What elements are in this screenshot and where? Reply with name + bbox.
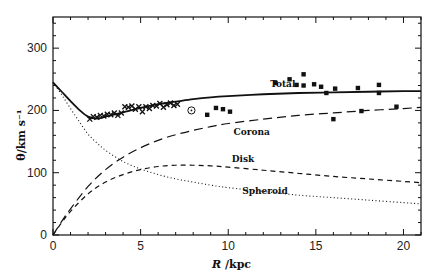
square-marker <box>333 86 337 90</box>
y-tick-label: 300 <box>27 41 47 55</box>
square-marker <box>214 106 218 110</box>
square-marker <box>324 91 328 95</box>
curve-spheroid <box>53 82 421 203</box>
x-tick-label: 5 <box>137 239 144 253</box>
square-marker <box>312 82 316 86</box>
label-total: Total <box>270 79 296 89</box>
y-axis-title: θ/km s⁻¹ <box>15 109 28 160</box>
y-tick-label: 0 <box>40 228 47 242</box>
plot-frame <box>53 17 421 235</box>
square-marker <box>319 85 323 89</box>
square-marker <box>221 107 225 111</box>
curve-labels: TotalCoronaDiskSpheroid <box>232 79 296 196</box>
square-marker <box>377 83 381 87</box>
square-marker <box>228 109 232 113</box>
x-tick-label: 15 <box>309 239 323 253</box>
sun-symbol-dot <box>191 110 193 112</box>
label-disk: Disk <box>232 154 255 164</box>
x-tick-label: 10 <box>222 239 236 253</box>
x-axis-title: R /kpc <box>211 258 251 271</box>
label-spheroid: Spheroid <box>242 186 288 196</box>
square-marker <box>359 109 363 113</box>
rotation-curve-chart: TotalCoronaDiskSpheroid 0510152001002003… <box>0 0 435 278</box>
square-marker <box>394 104 398 108</box>
square-marker <box>205 113 209 117</box>
square-marker <box>331 117 335 121</box>
cross-marker <box>140 109 145 114</box>
square-marker <box>301 72 305 76</box>
y-tick-label: 200 <box>27 103 47 117</box>
label-corona: Corona <box>233 127 269 137</box>
x-tick-label: 20 <box>397 239 411 253</box>
y-tick-label: 100 <box>27 166 47 180</box>
x-tick-label: 0 <box>50 239 57 253</box>
observed-points <box>87 72 398 122</box>
square-marker <box>356 86 360 90</box>
square-marker <box>377 91 381 95</box>
axes: 051015200100200300 <box>27 17 421 253</box>
square-marker <box>301 83 305 87</box>
